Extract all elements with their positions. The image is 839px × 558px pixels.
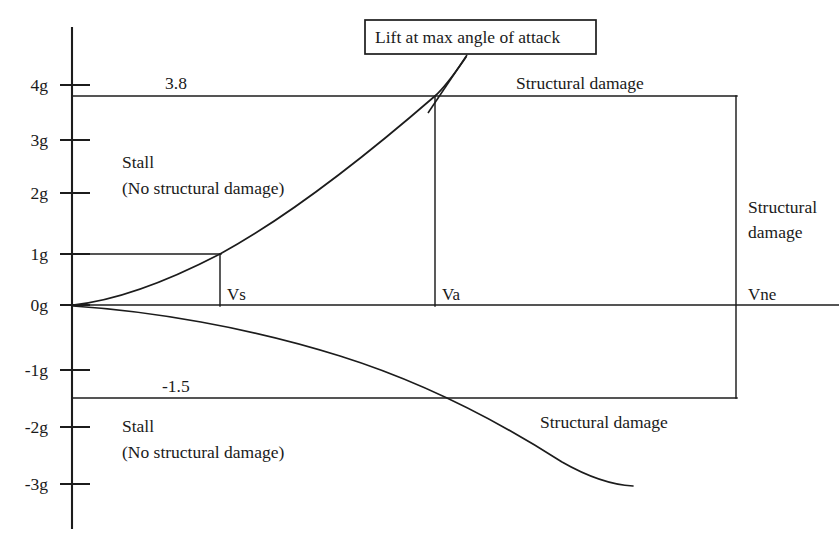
axis-label-3g: 3g [31,130,49,150]
axis-label-2g: 2g [31,183,49,203]
vn-diagram-figure: 4g 3g 2g 1g 0g -1g -2g -3g Lift at max a… [0,0,839,558]
axis-label-minus-3g: -3g [25,474,49,494]
positive-limit-value-label: 3.8 [165,73,187,93]
vs-label: Vs [227,285,246,304]
vn-diagram-canvas: 4g 3g 2g 1g 0g -1g -2g -3g Lift at max a… [0,0,839,558]
va-label: Va [442,285,460,304]
axis-label-0g: 0g [31,295,49,315]
vne-label: Vne [748,285,776,304]
lower-stall-label-line1: Stall [122,416,154,436]
negative-limit-value-label: -1.5 [162,376,190,396]
upper-stall-label-line1: Stall [122,152,154,172]
structural-damage-right-label-line2: damage [748,222,803,242]
axis-label-minus-2g: -2g [25,417,49,437]
upper-stall-label-line2: (No structural damage) [122,178,284,198]
axis-label-minus-1g: -1g [25,360,49,380]
structural-damage-right-label-line1: Structural [748,197,817,217]
structural-damage-below-label: Structural damage [540,412,668,432]
axis-label-4g: 4g [31,75,49,95]
max-aoa-callout-label: Lift at max angle of attack [375,27,560,47]
structural-damage-above-label: Structural damage [516,73,644,93]
axis-label-1g: 1g [31,244,49,264]
lower-stall-label-line2: (No structural damage) [122,442,284,462]
max-aoa-leader-line [428,55,467,113]
